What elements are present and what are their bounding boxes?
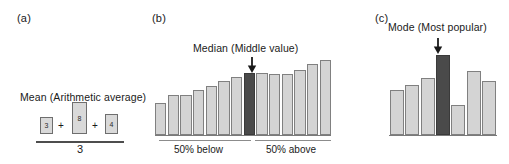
bar [168,95,179,135]
mode-caption: Mode (Most popular) [388,21,487,33]
mean-term-value-3: 4 [110,121,114,128]
plus-operator-2: + [92,121,98,131]
statistics-figure: (a) Mean (Arithmetic average) 3 + 8 + 4 … [0,0,509,164]
mean-term-value-1: 3 [45,122,49,129]
above-bracket [255,140,331,141]
bar [307,64,318,135]
bar [294,70,305,135]
bar [482,81,496,135]
mode-chart-axis [389,135,497,136]
bar [193,90,204,135]
mode-bar-chart [390,55,496,135]
panel-label-c: (c) [375,12,388,24]
bar [282,74,293,135]
bar [244,73,255,135]
mean-denominator: 3 [36,143,124,155]
down-arrow-icon [432,38,444,54]
median-left-label: 50% below [174,144,223,155]
bar [390,90,404,135]
below-bracket [159,140,251,141]
plus-operator-1: + [58,121,64,131]
bar [206,86,217,135]
bar [155,103,166,135]
median-caption: Median (Middle value) [193,42,298,54]
median-bar-chart [155,60,331,135]
bar [218,81,229,135]
bar [467,71,481,135]
mean-term-box-1: 3 [40,117,53,134]
bar [256,73,267,135]
mean-term-box-2: 8 [72,102,87,134]
bar [436,55,450,135]
bar [405,85,419,135]
bar [451,105,465,135]
mean-term-value-2: 8 [78,115,82,122]
median-right-label: 50% above [266,144,316,155]
median-chart-axis [155,135,331,136]
mean-term-box-3: 4 [105,114,118,134]
bar [421,78,435,135]
bar [231,77,242,135]
bar [269,74,280,135]
panel-label-b: (b) [152,12,166,24]
panel-label-a: (a) [17,12,31,24]
bar [180,95,191,135]
bar [320,60,331,135]
